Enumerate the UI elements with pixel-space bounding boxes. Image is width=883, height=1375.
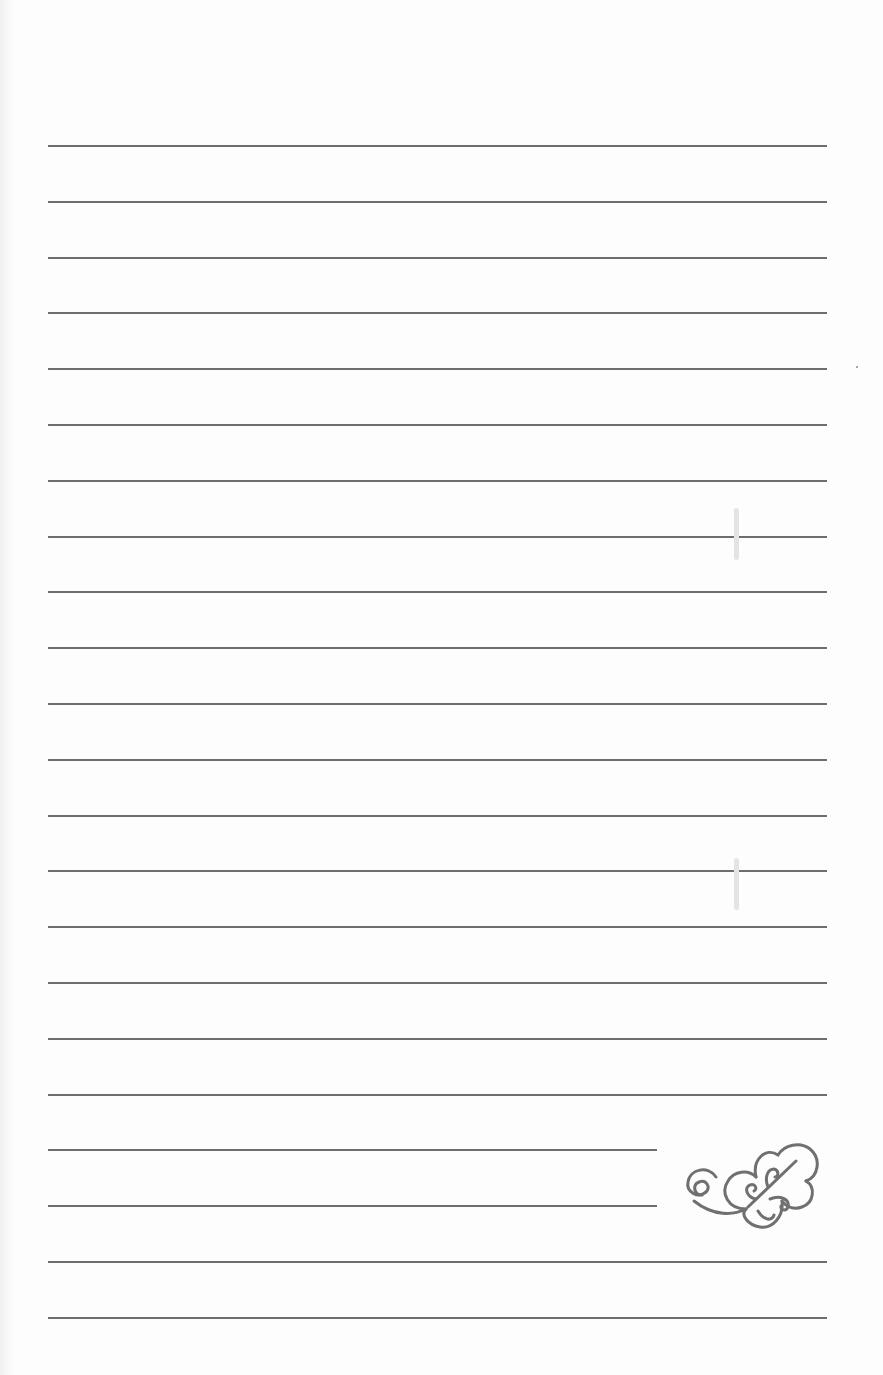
ruled-line [48, 982, 827, 984]
ruled-line [48, 257, 827, 259]
ruled-line [48, 536, 827, 538]
ruled-line [48, 1094, 827, 1096]
ruled-line [48, 591, 827, 593]
ruled-line [48, 1317, 827, 1319]
ruled-line [48, 424, 827, 426]
scan-speck [856, 366, 858, 368]
scan-smudge [734, 858, 739, 910]
ruled-line-short [48, 1205, 657, 1207]
ruled-line [48, 815, 827, 817]
ruled-line [48, 703, 827, 705]
ruled-line [48, 368, 827, 370]
ruled-line [48, 145, 827, 147]
ruled-line [48, 926, 827, 928]
ruled-line [48, 480, 827, 482]
ruled-line-short [48, 1149, 657, 1151]
page-edge-shadow [0, 0, 14, 1375]
ruled-line [48, 312, 827, 314]
ruled-line [48, 1038, 827, 1040]
ruled-line [48, 870, 827, 872]
ruled-line [48, 647, 827, 649]
ruled-line [48, 759, 827, 761]
scan-smudge [734, 508, 739, 560]
swirl-leaf-ornament-icon [684, 1137, 826, 1235]
ruled-line [48, 1261, 827, 1263]
notebook-page: { "page": { "type": "lined-paper", "back… [0, 0, 883, 1375]
ruled-line [48, 201, 827, 203]
